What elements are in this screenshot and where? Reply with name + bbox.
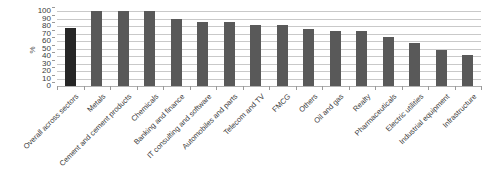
y-axis-tickmark xyxy=(52,30,55,31)
y-axis-tickmark xyxy=(52,7,55,8)
bar xyxy=(65,28,76,86)
bar xyxy=(383,37,394,86)
x-axis-category-label: Realty xyxy=(351,92,372,113)
bar xyxy=(356,31,367,86)
bar xyxy=(303,29,314,86)
y-axis-tickmark xyxy=(52,45,55,46)
bar xyxy=(462,55,473,86)
y-axis-tickmark xyxy=(52,82,55,83)
y-axis-tickmark xyxy=(52,75,55,76)
bar xyxy=(171,19,182,86)
bar xyxy=(277,25,288,86)
x-axis-category-labels: Overall across sectorsMetalsCement and c… xyxy=(0,90,486,194)
bar xyxy=(197,22,208,87)
bar-series xyxy=(57,11,481,86)
bar xyxy=(224,22,235,87)
bar xyxy=(91,11,102,86)
y-axis-tickmark xyxy=(52,37,55,38)
y-axis-tickmark xyxy=(52,60,55,61)
y-axis-tickmark xyxy=(52,52,55,53)
plot-area xyxy=(57,11,481,86)
x-axis-category-label: Others xyxy=(297,92,319,114)
y-axis-tick-label: 0 xyxy=(47,82,51,90)
bar-chart: % 1009080706050403020100 Overall across … xyxy=(0,0,486,194)
y-axis-tickmark xyxy=(52,22,55,23)
bar xyxy=(330,31,341,86)
x-axis-category-label: Overall across sectors xyxy=(22,92,81,151)
y-axis-tickmark xyxy=(52,15,55,16)
bar xyxy=(144,11,155,86)
bar xyxy=(250,25,261,87)
y-axis-tickmark xyxy=(52,67,55,68)
x-axis-category-label: Metals xyxy=(85,92,107,114)
bar xyxy=(409,43,420,86)
bar xyxy=(118,11,129,86)
y-axis-tick-labels: 1009080706050403020100 xyxy=(31,11,53,86)
bar xyxy=(436,50,447,86)
x-axis-category-label: FMCG xyxy=(271,92,293,114)
